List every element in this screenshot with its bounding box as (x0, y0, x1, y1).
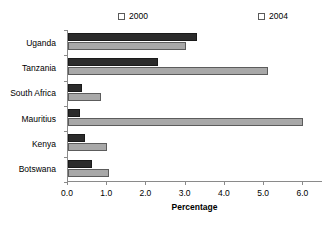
bar-2004[interactable] (68, 160, 92, 168)
y-axis-label: Uganda (0, 38, 56, 48)
bar-2004[interactable] (68, 33, 197, 41)
bar-2000[interactable] (68, 169, 109, 177)
y-axis-label: Mauritius (0, 114, 56, 124)
x-axis-tick-label: 1.0 (91, 188, 121, 198)
legend-label-2004: 2004 (269, 11, 288, 21)
bar-group (68, 81, 322, 106)
x-axis-tick-label: 0.0 (52, 188, 82, 198)
x-axis-tick-label: 3.0 (170, 188, 200, 198)
y-axis-label: Kenya (0, 139, 56, 149)
legend-label-2000: 2000 (129, 11, 148, 21)
bar-2004[interactable] (68, 109, 80, 117)
legend-entry-2000[interactable]: 2000 (118, 11, 148, 21)
legend-entry-2004[interactable]: 2004 (258, 11, 288, 21)
chart-legend: 2000 2004 (0, 11, 329, 25)
x-axis-tick-label: 4.0 (209, 188, 239, 198)
bar-group (68, 157, 322, 182)
bar-2000[interactable] (68, 93, 101, 101)
x-axis-tick (106, 182, 107, 185)
chart-title (0, 0, 329, 1)
bar-group (68, 131, 322, 156)
x-axis-tick (263, 182, 264, 185)
y-axis-label: Tanzania (0, 63, 56, 73)
bar-2000[interactable] (68, 67, 268, 75)
legend-swatch-2004 (258, 13, 265, 20)
bar-2004[interactable] (68, 134, 85, 142)
x-axis-tick-label: 2.0 (130, 188, 160, 198)
x-axis-tick (185, 182, 186, 185)
y-axis-label: Botswana (0, 164, 56, 174)
y-axis-tick (64, 55, 67, 56)
bar-group (68, 30, 322, 55)
bar-2004[interactable] (68, 58, 158, 66)
bar-group (68, 55, 322, 80)
bar-2000[interactable] (68, 143, 107, 151)
bar-group (68, 106, 322, 131)
bar-2000[interactable] (68, 118, 303, 126)
y-axis-tick (64, 131, 67, 132)
x-axis-title: Percentage (67, 202, 322, 212)
y-axis-tick (64, 106, 67, 107)
plot-area: UgandaTanzaniaSouth AfricaMauritiusKenya… (67, 30, 322, 182)
y-axis-tick (64, 81, 67, 82)
x-axis-tick (145, 182, 146, 185)
x-axis-tick (302, 182, 303, 185)
x-axis-tick (224, 182, 225, 185)
bar-chart: 2000 2004 UgandaTanzaniaSouth AfricaMaur… (0, 0, 329, 225)
y-axis-tick (64, 30, 67, 31)
y-axis-tick (64, 157, 67, 158)
x-axis-tick (67, 182, 68, 185)
bar-2004[interactable] (68, 84, 82, 92)
x-axis-tick-label: 5.0 (248, 188, 278, 198)
y-axis-label: South Africa (0, 88, 56, 98)
bar-2000[interactable] (68, 42, 186, 50)
x-axis-tick-label: 6.0 (287, 188, 317, 198)
legend-swatch-2000 (118, 13, 125, 20)
